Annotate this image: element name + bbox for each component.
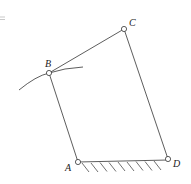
label-b: B bbox=[45, 58, 51, 69]
label-c: C bbox=[129, 17, 136, 28]
joint-d-icon bbox=[165, 156, 170, 161]
label-d: D bbox=[172, 158, 181, 169]
joints bbox=[46, 26, 170, 164]
margin-mark bbox=[0, 17, 5, 20]
links bbox=[49, 29, 168, 162]
joint-b-icon bbox=[46, 70, 51, 75]
link-bc bbox=[49, 29, 124, 73]
joint-a-icon bbox=[75, 159, 80, 164]
link-cd bbox=[124, 29, 168, 159]
four-bar-linkage-diagram: A B C D bbox=[0, 0, 191, 184]
joint-c-icon bbox=[121, 26, 126, 31]
ground-hatching bbox=[82, 161, 161, 172]
label-a: A bbox=[64, 162, 72, 173]
link-ab bbox=[49, 73, 78, 162]
